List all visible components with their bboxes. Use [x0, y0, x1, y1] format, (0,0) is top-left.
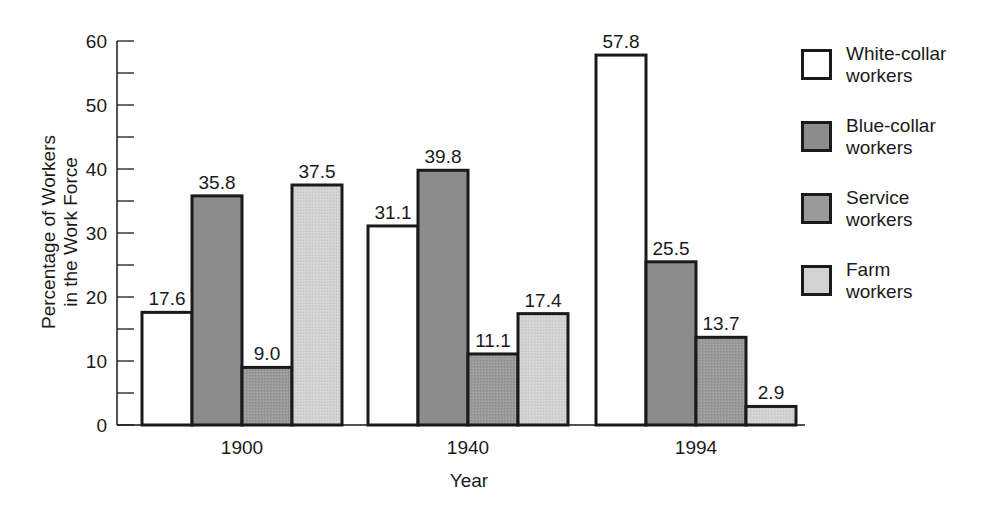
- legend-swatch-service: [801, 193, 832, 224]
- value-label: 17.4: [525, 290, 562, 311]
- value-label: 31.1: [375, 202, 412, 223]
- x-tick-label: 1900: [221, 437, 263, 458]
- value-label: 25.5: [653, 238, 690, 259]
- legend-label: Service: [846, 187, 986, 209]
- value-label: 35.8: [199, 172, 236, 193]
- bar-farm-workers-1940: [518, 314, 568, 425]
- legend-swatch-white-collar: [801, 49, 832, 80]
- y-tick-label: 30: [86, 223, 107, 244]
- bar-blue-collar-workers-1994: [646, 262, 696, 425]
- value-label: 57.8: [603, 31, 640, 52]
- value-label: 9.0: [254, 343, 280, 364]
- y-axis-title-line1: Percentage of Workers: [38, 135, 60, 329]
- bar-farm-workers-1994: [746, 406, 796, 425]
- bar-white-collar-workers-1940: [368, 226, 418, 425]
- legend-label: workers: [846, 281, 986, 303]
- y-axis-title-line2: in the Work Force: [60, 135, 82, 329]
- value-label: 17.6: [149, 288, 186, 309]
- y-tick-label: 40: [86, 159, 107, 180]
- y-tick-label: 10: [86, 351, 107, 372]
- y-tick-label: 50: [86, 95, 107, 116]
- x-axis-title: Year: [450, 470, 489, 491]
- legend-label: workers: [846, 137, 986, 159]
- value-label: 39.8: [425, 146, 462, 167]
- bar-service-workers-1900: [242, 367, 292, 425]
- value-label: 11.1: [475, 330, 511, 351]
- legend-label: workers: [846, 65, 986, 87]
- bars: [142, 55, 796, 425]
- bar-service-workers-1940: [468, 354, 518, 425]
- legend-label: workers: [846, 209, 986, 231]
- y-tick-label: 60: [86, 31, 107, 52]
- bar-white-collar-workers-1900: [142, 312, 192, 425]
- y-tick-label: 0: [96, 415, 107, 436]
- bar-farm-workers-1900: [292, 185, 342, 425]
- legend-swatch-farm: [801, 265, 832, 296]
- legend-label: Blue-collar: [846, 115, 986, 137]
- legend-swatch-blue-collar: [801, 121, 832, 152]
- bar-white-collar-workers-1994: [596, 55, 646, 425]
- x-tick-label: 1994: [675, 437, 718, 458]
- value-label: 37.5: [299, 161, 336, 182]
- legend-label: Farm: [846, 259, 986, 281]
- bar-service-workers-1994: [696, 337, 746, 425]
- x-tick-label: 1940: [447, 437, 489, 458]
- value-label: 2.9: [758, 382, 784, 403]
- legend-label: White-collar: [846, 43, 986, 65]
- bar-blue-collar-workers-1940: [418, 170, 468, 425]
- bar-chart: 0102030405060190019401994Year 17.635.89.…: [0, 0, 986, 510]
- bar-blue-collar-workers-1900: [192, 196, 242, 425]
- y-tick-label: 20: [86, 287, 107, 308]
- value-label: 13.7: [703, 313, 740, 334]
